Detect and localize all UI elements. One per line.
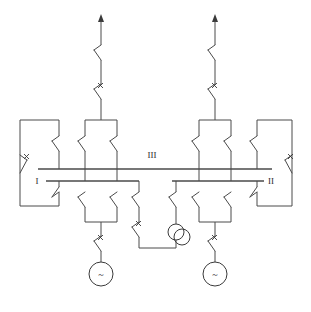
feeder-right-arrow-icon	[212, 14, 218, 22]
bus-i-label: I	[36, 176, 39, 186]
bus-coupler-right	[250, 120, 293, 206]
breaker-tie-left[interactable]	[132, 221, 141, 248]
breaker-feeder-right[interactable]	[208, 83, 217, 120]
switch-right-lower-b[interactable]	[224, 192, 231, 222]
generator-left: ~	[89, 262, 113, 286]
switch-right-upper-b[interactable]	[224, 136, 231, 181]
switch-coupler-left-upper[interactable]	[52, 136, 59, 169]
feeder-left	[94, 14, 104, 120]
breaker-generator-right[interactable]	[208, 235, 217, 262]
switch-tie-right-upper[interactable]	[169, 181, 176, 207]
switch-tie-left-upper[interactable]	[132, 192, 139, 222]
bay-left-lower: ~	[78, 192, 117, 286]
switch-coupler-left-lower[interactable]	[52, 181, 59, 197]
switch-feeder-left-upper[interactable]	[94, 45, 101, 84]
bay-left-upper	[78, 120, 117, 181]
bay-right-lower: ~	[192, 192, 231, 286]
switch-right-lower-a[interactable]	[192, 192, 199, 222]
breaker-coupler-left[interactable]	[20, 154, 29, 173]
generator-left-symbol: ~	[98, 269, 104, 280]
switch-left-upper-a[interactable]	[78, 136, 85, 181]
feeder-right	[208, 14, 218, 120]
switch-left-lower-b[interactable]	[110, 192, 117, 222]
switch-coupler-right-lower[interactable]	[250, 181, 257, 197]
feeder-left-arrow-icon	[98, 14, 104, 22]
switch-left-lower-a[interactable]	[78, 192, 85, 222]
generator-right-symbol: ~	[212, 269, 218, 280]
generator-right: ~	[203, 262, 227, 286]
switch-left-upper-b[interactable]	[110, 136, 117, 181]
bus-ii-label: II	[268, 176, 274, 186]
single-line-diagram: ~	[0, 0, 311, 312]
transformer-tie	[168, 224, 190, 245]
switch-coupler-right-upper[interactable]	[250, 136, 257, 169]
switch-right-upper-a[interactable]	[192, 136, 199, 181]
bus-iii-label: III	[148, 150, 157, 160]
breaker-feeder-left[interactable]	[94, 83, 103, 120]
switch-feeder-right-upper[interactable]	[208, 45, 215, 84]
diagram-canvas: ~	[0, 0, 311, 312]
breaker-generator-left[interactable]	[94, 235, 103, 262]
bus-coupler-left	[20, 120, 59, 206]
bay-right-upper	[192, 120, 231, 181]
bus-tie-transformer-branch	[132, 181, 190, 248]
